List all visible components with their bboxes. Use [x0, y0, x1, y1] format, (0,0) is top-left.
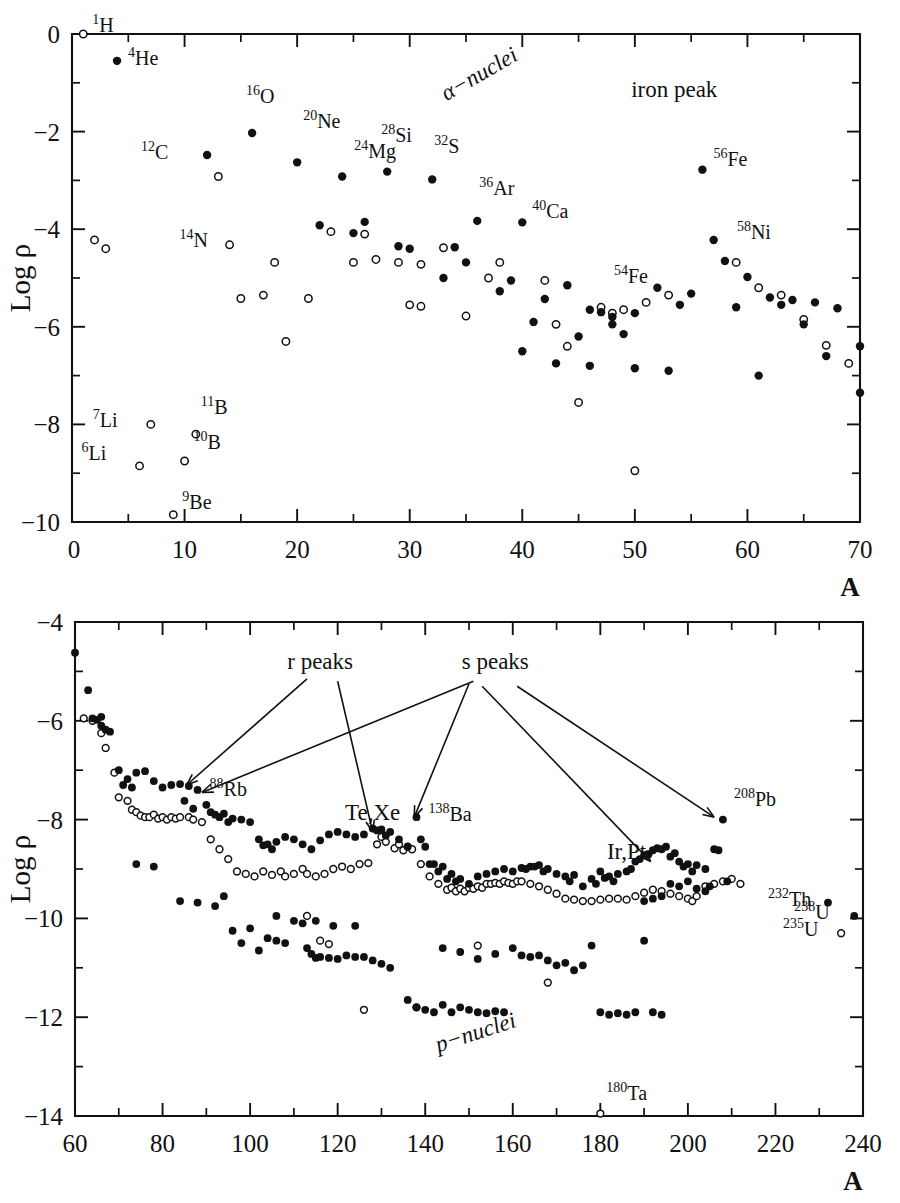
- data-point-filled: [623, 1011, 631, 1019]
- data-point-open: [207, 836, 214, 843]
- data-point-filled: [428, 175, 436, 183]
- data-point-filled: [702, 865, 710, 873]
- isotope-symbol: He: [135, 47, 158, 69]
- upper-data-points: [80, 30, 865, 518]
- data-point-open: [177, 814, 184, 821]
- data-point-filled: [71, 649, 79, 657]
- data-point-open: [426, 873, 433, 880]
- data-point-filled: [518, 347, 526, 355]
- isotope-label: 56Fe: [713, 146, 747, 170]
- data-point-open: [91, 236, 98, 243]
- data-point-filled: [325, 831, 333, 839]
- data-point-filled: [255, 947, 263, 955]
- data-point-filled: [675, 882, 683, 890]
- isotope-label: 32S: [434, 133, 459, 157]
- isotope-symbol: O: [260, 85, 274, 107]
- data-point-open: [304, 871, 311, 878]
- data-point-filled: [308, 845, 316, 853]
- data-point-filled: [229, 927, 237, 935]
- data-point-filled: [474, 955, 482, 963]
- isotope-mass-number: 11: [201, 394, 214, 409]
- data-point-filled: [338, 172, 346, 180]
- data-point-filled: [413, 1003, 421, 1011]
- isotope-mass-number: 235: [783, 916, 804, 931]
- data-point-filled: [608, 313, 616, 321]
- x-tick-label: 60: [63, 1130, 88, 1157]
- data-point-filled: [693, 885, 701, 893]
- data-point-filled: [658, 892, 666, 900]
- data-point-filled: [800, 320, 808, 328]
- data-point-open: [737, 880, 744, 887]
- isotope-symbol: U: [804, 918, 819, 940]
- data-point-filled: [723, 877, 731, 885]
- data-point-filled: [128, 784, 136, 792]
- isotope-mass-number: 20: [303, 108, 317, 123]
- data-point-filled: [553, 961, 561, 969]
- data-point-open: [606, 895, 613, 902]
- data-point-filled: [315, 221, 323, 229]
- data-point-filled: [631, 364, 639, 372]
- data-point-open: [614, 895, 621, 902]
- y-tick-label: −14: [24, 1103, 64, 1130]
- data-point-filled: [631, 1008, 639, 1016]
- y-tick-label: −8: [33, 411, 60, 438]
- data-point-filled: [417, 835, 425, 843]
- data-point-filled: [496, 287, 504, 295]
- isotope-label: 20Ne: [303, 108, 340, 132]
- isotope-symbol: C: [155, 141, 168, 163]
- data-point-filled: [281, 939, 289, 947]
- isotope-label: 1H: [92, 12, 113, 36]
- data-point-filled: [653, 284, 661, 292]
- data-point-filled: [579, 882, 587, 890]
- data-point-open: [544, 886, 551, 893]
- isotope-label: 36Ar: [479, 175, 514, 199]
- lower-point-labels: 88Rb138Ba208Pb232Th238U235U180Ta: [210, 776, 831, 1104]
- y-tick-label: −4: [36, 609, 63, 636]
- isotope-mass-number: 7: [93, 407, 100, 422]
- x-axis-title: A: [843, 1166, 863, 1196]
- data-point-filled: [544, 865, 552, 873]
- x-tick-label: 220: [757, 1130, 795, 1157]
- isotope-symbol: B: [214, 396, 227, 418]
- isotope-mass-number: 9: [182, 489, 189, 504]
- data-point-filled: [194, 786, 202, 794]
- data-point-open: [102, 245, 109, 252]
- data-point-open: [80, 30, 87, 37]
- data-point-open: [251, 873, 258, 880]
- data-point-open: [496, 259, 503, 266]
- data-point-filled: [132, 769, 140, 777]
- data-point-open: [579, 898, 586, 905]
- data-point-filled: [439, 944, 447, 952]
- annotation-arrow-line: [187, 679, 307, 785]
- data-point-filled: [299, 840, 307, 848]
- data-point-filled: [220, 892, 228, 900]
- data-point-open: [575, 399, 582, 406]
- data-point-filled: [246, 818, 254, 826]
- data-point-filled: [732, 303, 740, 311]
- isotope-mass-number: 208: [734, 786, 755, 801]
- isotope-symbol: Ne: [317, 110, 340, 132]
- data-point-open: [372, 256, 379, 263]
- data-point-filled: [329, 922, 337, 930]
- data-point-filled: [316, 836, 324, 844]
- data-point-filled: [588, 942, 596, 950]
- data-point-open: [102, 745, 109, 752]
- data-point-open: [382, 838, 389, 845]
- data-point-filled: [299, 919, 307, 927]
- y-axis-title: Log ρ: [4, 244, 36, 312]
- isotope-symbol: Pb: [755, 788, 776, 810]
- isotope-symbol: S: [448, 135, 459, 157]
- data-point-filled: [491, 950, 499, 958]
- isotope-symbol: Li: [89, 442, 107, 464]
- data-point-filled: [439, 1001, 447, 1009]
- data-point-open: [225, 856, 232, 863]
- isotope-symbol: Li: [100, 409, 118, 431]
- chart-annotation: Te,Xe: [345, 800, 400, 825]
- isotope-label: 16O: [246, 83, 274, 107]
- data-point-filled: [439, 274, 447, 282]
- data-point-filled: [211, 902, 219, 910]
- data-point-filled: [246, 924, 254, 932]
- data-point-filled: [334, 828, 342, 836]
- data-point-filled: [189, 805, 197, 813]
- data-point-open: [365, 860, 372, 867]
